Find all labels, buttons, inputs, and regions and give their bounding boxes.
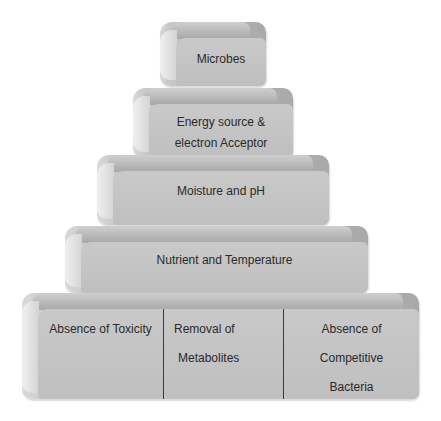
cell-absence-of-competitive-bacteria: Absence of Competitive Bacteria xyxy=(284,309,419,399)
tier-microbes-top xyxy=(170,22,250,39)
tier-energy-face: Energy source & electron Acceptor xyxy=(149,104,293,158)
tier-base-top xyxy=(32,293,403,310)
tier-microbes-side xyxy=(160,30,177,80)
tier-moisture-side xyxy=(97,163,114,219)
base-cells: Absence of Toxicity Removal of Metabolit… xyxy=(38,309,419,399)
cell-bacteria-line2: Competitive xyxy=(284,344,419,373)
tier-microbes: Microbes xyxy=(160,22,266,86)
tier-base-face: Absence of Toxicity Removal of Metabolit… xyxy=(38,309,419,399)
cell-toxicity-line1: Absence of Toxicity xyxy=(38,315,163,344)
tier-energy-label-line1: Energy source & xyxy=(177,112,266,133)
tier-moisture-face: Moisture and pH xyxy=(113,171,329,225)
tier-base: Absence of Toxicity Removal of Metabolit… xyxy=(22,293,419,399)
cell-metabolites-line1: Removal of xyxy=(166,315,283,344)
tier-energy-side xyxy=(133,96,150,152)
tier-moisture-label: Moisture and pH xyxy=(177,181,265,202)
tier-nutrient-top xyxy=(75,226,352,243)
tier-nutrient-label: Nutrient and Temperature xyxy=(157,250,293,271)
tier-moisture-top xyxy=(107,155,313,172)
tier-nutrient-side xyxy=(65,234,82,287)
tier-microbes-label: Microbes xyxy=(197,49,246,70)
tier-microbes-face: Microbes xyxy=(176,38,266,86)
cell-metabolites-line2: Metabolites xyxy=(166,344,283,373)
tier-base-side xyxy=(22,301,39,393)
tier-energy-source: Energy source & electron Acceptor xyxy=(133,88,293,158)
tier-nutrient-face: Nutrient and Temperature xyxy=(81,242,368,293)
tier-nutrient-temperature: Nutrient and Temperature xyxy=(65,226,368,293)
tier-moisture-ph: Moisture and pH xyxy=(97,155,329,225)
cell-bacteria-line3: Bacteria xyxy=(284,373,419,399)
tier-energy-top xyxy=(143,88,277,105)
cell-absence-of-toxicity: Absence of Toxicity xyxy=(38,309,164,399)
tier-energy-label-line2: electron Acceptor xyxy=(175,133,268,154)
cell-removal-of-metabolites: Removal of Metabolites xyxy=(164,309,284,399)
cell-bacteria-line1: Absence of xyxy=(284,315,419,344)
